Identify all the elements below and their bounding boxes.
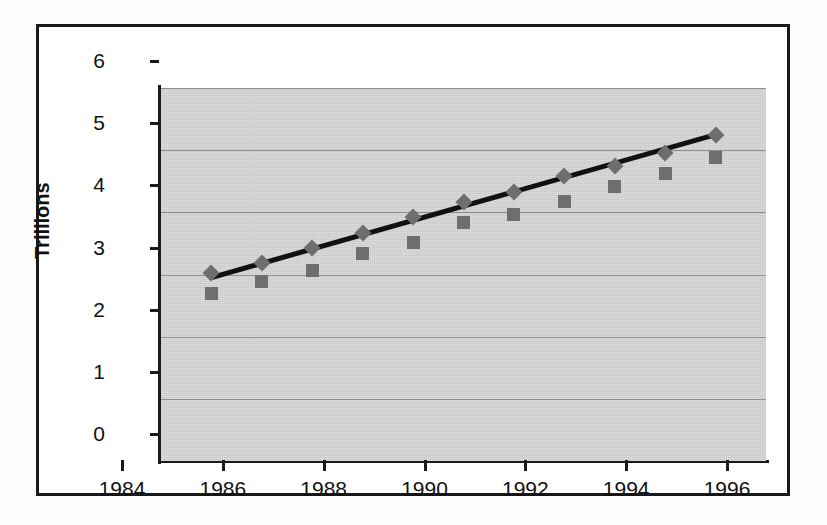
x-tick (726, 460, 729, 471)
y-tick-label: 3 (65, 237, 105, 258)
plot-area (161, 88, 766, 461)
data-point-square (659, 167, 672, 180)
x-tick-label: 1984 (77, 478, 167, 499)
data-point-square (457, 216, 470, 229)
x-tick (625, 460, 628, 471)
data-point-square (255, 275, 268, 288)
y-tick (150, 309, 159, 312)
trendline (161, 88, 766, 461)
x-tick-label: 1986 (178, 478, 268, 499)
data-point-square (709, 151, 722, 164)
data-point-square (205, 287, 218, 300)
chart-figure: Trillions 0123456 1984198619881990199219… (0, 0, 827, 525)
x-tick-label: 1994 (581, 478, 671, 499)
x-tick (524, 460, 527, 471)
y-tick-label: 5 (65, 112, 105, 133)
x-tick (424, 460, 427, 471)
x-tick-label: 1992 (480, 478, 570, 499)
x-tick-label: 1996 (682, 478, 772, 499)
y-tick (150, 60, 159, 63)
x-tick (121, 460, 124, 471)
data-point-square (608, 180, 621, 193)
x-tick (323, 460, 326, 471)
data-point-square (407, 236, 420, 249)
data-point-square (306, 264, 319, 277)
data-point-square (507, 208, 520, 221)
y-tick (150, 371, 159, 374)
y-tick (150, 184, 159, 187)
y-tick (150, 122, 159, 125)
y-axis-group: Trillions (39, 27, 158, 525)
figure-frame: Trillions 0123456 1984198619881990199219… (36, 24, 790, 496)
y-tick-label: 0 (65, 423, 105, 444)
data-point-square (558, 195, 571, 208)
y-tick (150, 433, 159, 436)
data-point-square (356, 247, 369, 260)
y-tick (150, 247, 159, 250)
y-tick-label: 1 (65, 361, 105, 382)
x-tick (222, 460, 225, 471)
y-axis-title: Trillions (31, 182, 54, 259)
x-tick-label: 1988 (279, 478, 369, 499)
x-tick-label: 1990 (380, 478, 470, 499)
y-tick-label: 6 (65, 50, 105, 71)
y-tick-label: 4 (65, 174, 105, 195)
y-tick-label: 2 (65, 299, 105, 320)
